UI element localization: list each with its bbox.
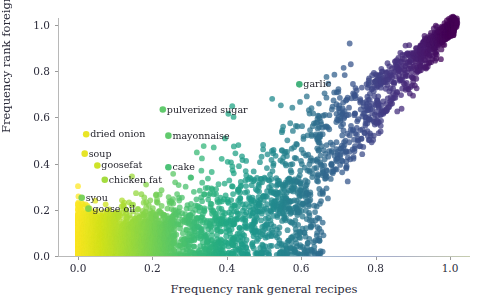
x-tick-mark — [227, 257, 228, 260]
x-tick-mark — [376, 257, 377, 260]
plot-area: dried onionsoupgoosefatchicken fatsyougo… — [58, 10, 470, 256]
x-tick-label: 0.0 — [70, 262, 87, 274]
y-tick-mark — [55, 210, 58, 211]
x-tick-mark — [301, 257, 302, 260]
x-tick-label: 0.4 — [218, 262, 235, 274]
x-tick-label: 0.2 — [144, 262, 161, 274]
y-tick-mark — [55, 164, 58, 165]
y-tick-label: 0.4 — [33, 158, 50, 170]
x-tick-label: 1.0 — [442, 262, 459, 274]
y-axis-spine — [58, 18, 59, 256]
y-axis-label: Frequency rank foreign recipes — [0, 0, 13, 133]
x-tick-mark — [78, 257, 79, 260]
scatter-plot-figure: dried onionsoupgoosefatchicken fatsyougo… — [0, 0, 485, 306]
y-tick-mark — [55, 71, 58, 72]
y-tick-label: 1.0 — [33, 19, 50, 31]
x-tick-label: 0.8 — [367, 262, 384, 274]
y-tick-label: 0.6 — [33, 111, 50, 123]
y-tick-mark — [55, 256, 58, 257]
x-axis-label: Frequency rank general recipes — [171, 282, 358, 296]
x-tick-mark — [152, 257, 153, 260]
y-tick-label: 0.0 — [33, 250, 50, 262]
x-tick-label: 0.6 — [293, 262, 310, 274]
x-axis-spine — [58, 256, 470, 257]
y-tick-mark — [55, 117, 58, 118]
scatter-points-canvas — [58, 10, 470, 256]
x-tick-mark — [450, 257, 451, 260]
y-tick-label: 0.2 — [33, 204, 50, 216]
y-tick-label: 0.8 — [33, 65, 50, 77]
y-tick-mark — [55, 25, 58, 26]
